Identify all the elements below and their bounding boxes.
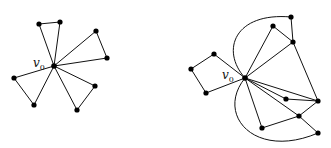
- vertex: [36, 21, 41, 26]
- vertex: [104, 55, 109, 60]
- edge: [273, 26, 293, 42]
- vertex: [315, 98, 320, 103]
- vertex: [288, 14, 293, 19]
- spoke-edge: [245, 78, 318, 101]
- edge: [14, 78, 34, 105]
- edge: [191, 69, 206, 93]
- vertex: [211, 51, 216, 56]
- graph-diagram: v0v0: [0, 0, 331, 148]
- vertex: [74, 107, 79, 112]
- edge: [299, 101, 318, 116]
- center-vertex-v0: [242, 75, 248, 81]
- edge: [293, 42, 318, 101]
- vertex: [11, 75, 16, 80]
- vertex: [290, 39, 295, 44]
- graph-left: v0: [11, 19, 109, 112]
- vertex: [203, 90, 208, 95]
- edge: [262, 116, 299, 128]
- edge: [291, 17, 293, 42]
- arc-edge: [233, 17, 291, 78]
- vertex-label-v0: v0: [33, 56, 45, 72]
- edge: [96, 31, 107, 58]
- spoke-edge: [245, 42, 293, 78]
- vertex: [283, 96, 288, 101]
- edge: [39, 22, 60, 24]
- vertex: [92, 83, 97, 88]
- vertex: [270, 23, 275, 28]
- spoke-edge: [54, 22, 60, 66]
- graph-right: v0: [188, 14, 320, 141]
- edge: [299, 116, 318, 133]
- edge: [191, 54, 214, 69]
- edge: [77, 86, 95, 110]
- vertex-label-v0: v0: [222, 68, 234, 84]
- vertex: [57, 19, 62, 24]
- spoke-edge: [245, 26, 273, 78]
- spoke-edge: [54, 66, 77, 110]
- vertex: [31, 102, 36, 107]
- spoke-edge: [245, 78, 299, 116]
- vertex: [259, 125, 264, 130]
- spoke-edge: [54, 66, 95, 86]
- spoke-edge: [39, 24, 54, 66]
- vertex: [315, 130, 320, 135]
- vertex: [296, 113, 301, 118]
- center-vertex-v0: [51, 63, 57, 69]
- vertex: [188, 66, 193, 71]
- vertex: [93, 28, 98, 33]
